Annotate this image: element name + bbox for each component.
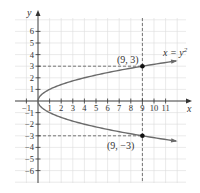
- y-tick-label: 1: [30, 84, 34, 94]
- equation-base: x = y: [162, 47, 184, 58]
- curve-arrow-lower-icon: [171, 138, 178, 142]
- curve-arrow-upper-icon: [171, 60, 178, 64]
- x-tick-label: 7: [117, 103, 121, 113]
- x-tick-label: 9: [140, 103, 144, 113]
- x-axis-label: x: [186, 103, 192, 114]
- y-axis-arrow-icon: [36, 10, 41, 16]
- point-9-neg3: [140, 134, 145, 139]
- y-tick-label: −2: [25, 119, 34, 129]
- grid: [15, 18, 186, 183]
- x-tick-label: 10: [150, 103, 159, 113]
- x-tick-label: 5: [94, 103, 98, 113]
- point-label-upper: (9, 3): [117, 54, 139, 66]
- y-axis-label: y: [26, 7, 32, 18]
- x-tick-label: 11: [162, 103, 170, 113]
- y-tick-label: −6: [25, 166, 34, 176]
- y-tick-label: 2: [30, 73, 34, 83]
- graph-x-equals-y-squared: −11234567891011654321−1−2−3−4−5−6 y x (9…: [0, 0, 200, 193]
- x-tick-label: 3: [71, 103, 75, 113]
- point-label-lower: (9, −3): [107, 140, 134, 152]
- x-tick-label: 2: [59, 103, 63, 113]
- y-tick-label: 3: [30, 61, 34, 71]
- x-tick-label: 6: [105, 103, 109, 113]
- y-tick-label: −3: [25, 131, 34, 141]
- y-tick-label: −4: [25, 142, 35, 152]
- y-tick-label: 5: [30, 38, 34, 48]
- x-tick-label: 4: [82, 103, 87, 113]
- equation-exponent: 2: [184, 46, 188, 54]
- y-tick-label: 6: [30, 26, 34, 36]
- x-tick-label: 8: [129, 103, 133, 113]
- y-tick-label: −5: [25, 154, 34, 164]
- equation-label: x = y2: [162, 46, 188, 58]
- point-9-3: [140, 64, 145, 69]
- y-tick-label: −1: [25, 108, 34, 118]
